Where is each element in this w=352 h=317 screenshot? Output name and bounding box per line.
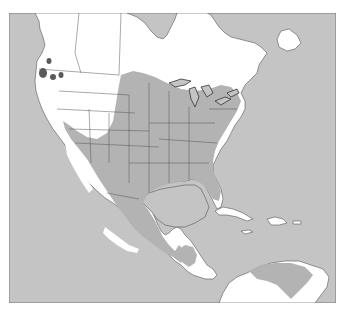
pnw-patch-2 — [50, 74, 56, 80]
range-map — [9, 13, 336, 303]
pnw-patch-4 — [47, 58, 52, 64]
puerto-rico — [293, 221, 301, 224]
pnw-patch-3 — [59, 72, 64, 78]
